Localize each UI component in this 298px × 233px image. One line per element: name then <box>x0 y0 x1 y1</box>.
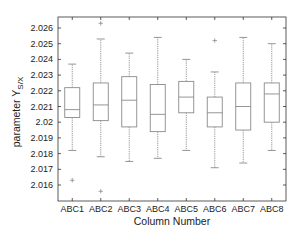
iqr-box <box>65 88 80 118</box>
y-tick-label: 2.022 <box>30 86 53 96</box>
box-abc5 <box>179 59 194 150</box>
y-tick-label: 2.019 <box>30 133 53 143</box>
x-tick-label: ABC2 <box>89 204 113 214</box>
outlier-marker <box>99 21 103 25</box>
x-tick-label: ABC5 <box>174 204 198 214</box>
iqr-box <box>150 85 165 132</box>
y-axis-label: parameter YS/X <box>10 76 25 147</box>
box-abc8 <box>264 44 279 151</box>
box-abc1 <box>65 64 80 182</box>
box-abc7 <box>236 37 251 163</box>
y-axis-label-subscript: S/X <box>16 76 25 90</box>
y-tick-label: 2.017 <box>30 164 53 174</box>
box-abc6 <box>207 38 222 167</box>
box-abc3 <box>122 53 137 161</box>
x-tick-label: ABC4 <box>146 204 170 214</box>
x-tick-label: ABC6 <box>203 204 227 214</box>
y-tick-label: 2.016 <box>30 180 53 190</box>
iqr-box <box>93 83 108 121</box>
y-tick-label: 2.021 <box>30 102 53 112</box>
x-tick-label: ABC3 <box>117 204 141 214</box>
plot-area <box>58 17 286 201</box>
x-axis-label: Column Number <box>134 215 211 227</box>
box-abc2 <box>93 21 108 193</box>
iqr-box <box>207 97 222 127</box>
x-tick-label: ABC1 <box>60 204 84 214</box>
x-tick-label: ABC8 <box>260 204 284 214</box>
box-plot-chart: 2.0162.0172.0182.0192.022.0212.0222.0232… <box>0 0 298 233</box>
y-tick-label: 2.026 <box>30 23 53 33</box>
iqr-box <box>264 83 279 122</box>
outlier-marker <box>213 38 217 42</box>
outlier-marker <box>99 189 103 193</box>
y-tick-label: 2.018 <box>30 149 53 159</box>
y-tick-label: 2.023 <box>30 70 53 80</box>
plot-frame <box>58 17 286 201</box>
x-tick-label: ABC7 <box>231 204 255 214</box>
outlier-marker <box>70 178 74 182</box>
y-tick-label: 2.024 <box>30 54 53 64</box>
y-tick-label: 2.02 <box>35 117 53 127</box>
y-tick-label: 2.025 <box>30 39 53 49</box>
y-axis-label-main: parameter Y <box>10 90 22 148</box>
box-abc4 <box>150 37 165 158</box>
iqr-box <box>122 77 137 127</box>
